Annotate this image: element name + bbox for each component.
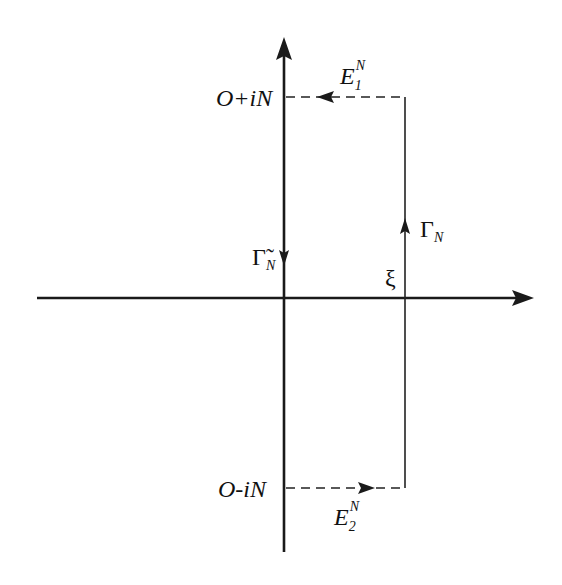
label-o-plus-in: O+iN [216,85,274,111]
label-xi: ξ [385,265,396,291]
e2-superscript: N [349,499,360,514]
label-e2n: E2N [333,499,360,534]
e1-subscript: 1 [355,78,362,93]
gamma-n-symbol: Γ [420,216,434,242]
label-e1n: E1N [339,58,366,93]
e2-subscript: 2 [349,519,356,534]
e2-symbol: E [333,504,349,530]
label-o-minus-in: O-iN [218,476,268,502]
gamma-tilde-subscript: N [265,258,276,273]
e1-symbol: E [339,63,355,89]
label-gamma-tilde-n: Γ̃N [252,244,276,273]
label-gamma-n: ΓN [420,216,444,245]
gamma-n-subscript: N [433,230,444,245]
e1-superscript: N [355,58,366,73]
e2-right-arrow-icon [358,482,375,494]
contour-diagram: O+iN O-iN ξ ΓN Γ̃N E1N E2N [0,0,562,585]
